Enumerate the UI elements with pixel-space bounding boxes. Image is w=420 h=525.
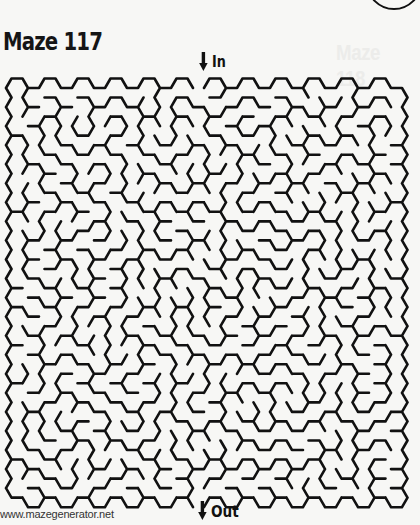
down-arrow-icon bbox=[199, 501, 206, 521]
credit-link[interactable]: www.mazegenerator.net bbox=[0, 508, 114, 520]
exit-label: Out bbox=[211, 502, 239, 521]
maze-walls bbox=[6, 79, 408, 508]
maze-wall-path bbox=[6, 79, 408, 508]
exit-marker: Out bbox=[199, 501, 239, 521]
